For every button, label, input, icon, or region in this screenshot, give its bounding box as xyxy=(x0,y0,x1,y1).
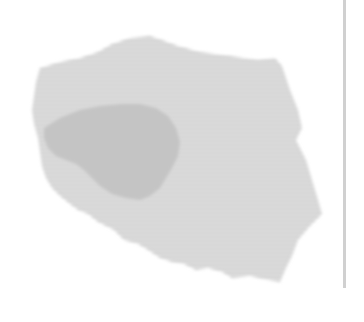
vertical-divider xyxy=(343,0,346,288)
map-canvas xyxy=(0,0,364,322)
poland-map xyxy=(0,0,364,322)
